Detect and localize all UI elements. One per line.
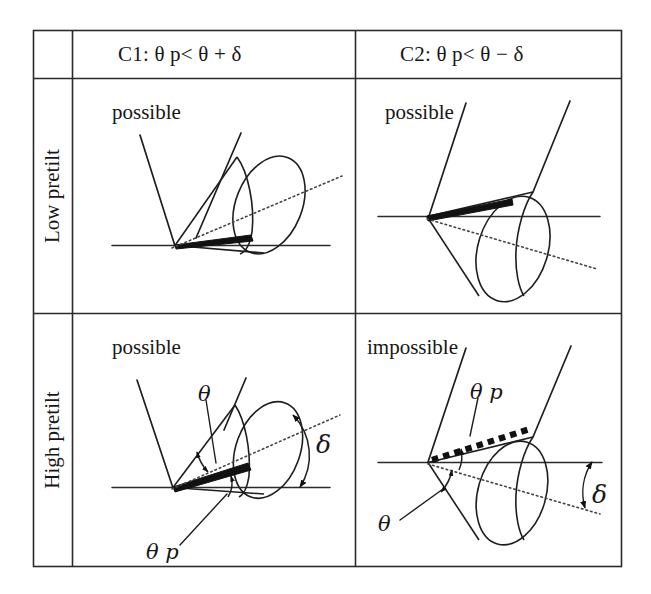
- pretilt-axis-dotted: [427, 219, 597, 269]
- column-header-c2: C2: θ p< θ − δ: [400, 42, 524, 67]
- verdict-high-c1: possible: [112, 335, 181, 360]
- annotation-delta-high-c1: δ: [316, 430, 331, 459]
- verdict-low-c2: possible: [385, 100, 454, 125]
- diagram-high-c2: [378, 346, 602, 553]
- left-boundary-ray: [137, 380, 173, 488]
- cone-base-ellipse: [221, 392, 315, 508]
- diagram-high-c1: [112, 378, 340, 545]
- verdict-low-c1: possible: [112, 100, 181, 125]
- annotation-theta-p-high-c2: θ p: [470, 380, 503, 404]
- cone-body: [173, 392, 315, 508]
- row-header-low-pretilt: Low pretilt: [40, 149, 65, 243]
- cone-base-ellipse: [219, 145, 318, 264]
- figure-canvas: .grid{stroke:#2b2b2b;stroke-width:1.6;fi…: [0, 0, 651, 594]
- diagram-low-c2: [378, 101, 600, 311]
- annotation-theta-p-high-c1: θ p: [146, 540, 179, 564]
- left-boundary-ray: [428, 348, 466, 462]
- annotation-delta-high-c2: δ: [592, 480, 607, 509]
- right-boundary-ray: [533, 101, 570, 192]
- delta-angle-arc: [583, 462, 592, 508]
- cone-body: [428, 433, 559, 554]
- theta-p-leader-line: [180, 494, 227, 545]
- right-boundary-ray: [533, 346, 571, 437]
- director-wedge: [427, 199, 513, 221]
- annotation-theta-high-c2: θ: [378, 512, 391, 536]
- figure-root: .grid{stroke:#2b2b2b;stroke-width:1.6;fi…: [0, 0, 651, 594]
- row-header-high-pretilt: High pretilt: [40, 391, 65, 488]
- annotation-theta-high-c1: θ: [198, 382, 211, 406]
- theta-p-angle-arc: [228, 476, 232, 497]
- cone-axis-dotted: [428, 464, 600, 514]
- column-header-c1: C1: θ p< θ + δ: [118, 42, 242, 67]
- left-boundary-ray: [140, 135, 175, 246]
- diagram-low-c1: [112, 133, 342, 265]
- theta-angle-arc: [197, 452, 208, 472]
- theta-p-dashed-director: [432, 429, 530, 460]
- theta-leader-line: [400, 489, 443, 520]
- verdict-high-c2: impossible: [367, 335, 458, 360]
